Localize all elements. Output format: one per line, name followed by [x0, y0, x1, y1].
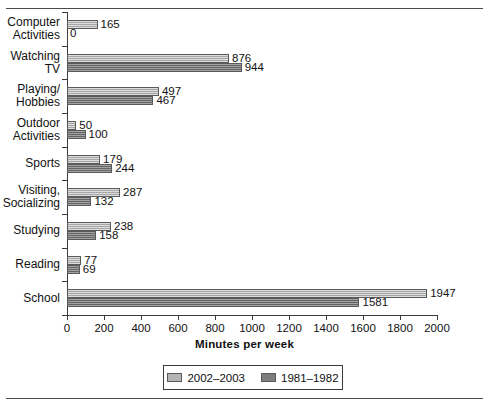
- x-axis-tick: [363, 315, 364, 320]
- bar-value-label: 165: [101, 19, 120, 30]
- x-axis-tick: [326, 315, 327, 320]
- bar: [67, 256, 81, 265]
- legend-swatch: [261, 373, 276, 382]
- y-axis-tick: [62, 281, 67, 282]
- x-axis-tick: [437, 315, 438, 320]
- y-axis-tick: [62, 248, 67, 249]
- x-axis-tick-label: 2000: [407, 322, 467, 334]
- bottom-divider-rule: [6, 398, 483, 399]
- bar-value-label: 944: [245, 62, 264, 73]
- bar: [67, 54, 229, 63]
- legend-item: 2002–2003: [167, 372, 245, 384]
- y-axis-tick: [62, 180, 67, 181]
- bar-value-label: 69: [83, 264, 96, 275]
- bar: [67, 96, 153, 105]
- x-axis-tick: [104, 315, 105, 320]
- bar: [67, 121, 76, 130]
- category-label: Outdoor Activities: [0, 117, 60, 143]
- legend-item: 1981–1982: [261, 372, 339, 384]
- bar: [67, 298, 359, 307]
- bar: [67, 265, 80, 274]
- top-divider-rule: [6, 8, 483, 9]
- y-axis-tick: [62, 46, 67, 47]
- x-axis-tick: [215, 315, 216, 320]
- legend-swatch: [167, 373, 182, 382]
- bar-value-label: 1581: [362, 297, 388, 308]
- bar: [67, 130, 86, 139]
- bar-value-label: 100: [89, 129, 108, 140]
- category-label: Reading: [0, 258, 60, 271]
- category-label: Computer Activities: [0, 16, 60, 42]
- x-axis-tick: [141, 315, 142, 320]
- bar-value-label: 158: [99, 230, 118, 241]
- category-label: Watching TV: [0, 50, 60, 76]
- bar: [67, 63, 242, 72]
- chart-legend: 2002–20031981–1982: [163, 365, 343, 390]
- x-axis-tick: [67, 315, 68, 320]
- x-axis-tick: [289, 315, 290, 320]
- bar-value-label: 287: [123, 187, 142, 198]
- y-axis-tick: [62, 12, 67, 13]
- bar-value-label: 132: [94, 196, 113, 207]
- x-axis-tick: [400, 315, 401, 320]
- bar: [67, 164, 112, 173]
- bar: [67, 87, 159, 96]
- y-axis-tick: [62, 79, 67, 80]
- x-axis-tick: [178, 315, 179, 320]
- bar-value-label: 0: [70, 28, 76, 39]
- y-axis-tick: [62, 113, 67, 114]
- bar-value-label: 244: [115, 163, 134, 174]
- category-label: School: [0, 292, 60, 305]
- category-label: Studying: [0, 224, 60, 237]
- legend-label: 1981–1982: [281, 372, 339, 384]
- bar: [67, 231, 96, 240]
- category-label: Sports: [0, 157, 60, 170]
- bar-value-label: 1947: [430, 288, 456, 299]
- category-label: Visiting, Socializing: [0, 184, 60, 210]
- legend-label: 2002–2003: [187, 372, 245, 384]
- bar: [67, 197, 91, 206]
- x-axis-tick: [252, 315, 253, 320]
- x-axis-title: Minutes per week: [0, 338, 489, 350]
- y-axis-tick: [62, 214, 67, 215]
- plot-area: Computer Activities1650Watching TV876944…: [67, 12, 437, 315]
- chart-figure: Computer Activities1650Watching TV876944…: [0, 0, 489, 410]
- y-axis-tick: [62, 147, 67, 148]
- category-label: Playing/ Hobbies: [0, 83, 60, 109]
- bar: [67, 155, 100, 164]
- bar-value-label: 467: [156, 95, 175, 106]
